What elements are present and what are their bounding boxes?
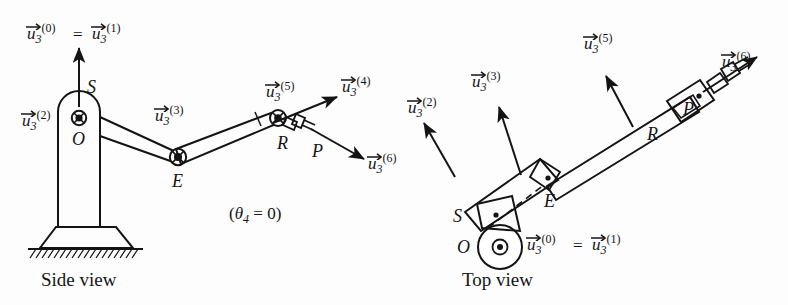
annotation-value: 0 xyxy=(267,204,276,223)
side-view-caption: Side view xyxy=(41,270,116,289)
point-label-O-side: O xyxy=(72,130,85,148)
shoulder-pivot-dot-top xyxy=(493,212,498,217)
arrow-u3-3-top xyxy=(499,107,521,175)
annotation-close-paren: ) xyxy=(276,204,282,223)
point-label-E-side: E xyxy=(172,172,183,190)
vector-label-u3-0-side: u3(0) xyxy=(27,22,56,45)
arrow-u3-2-top xyxy=(424,123,455,177)
vector-label-u3-1-top: u3(1) xyxy=(592,233,621,256)
vector-superscript: (0) xyxy=(542,232,556,246)
point-label-E-top: E xyxy=(544,192,555,210)
vector-label-u3-2-side: u3(2) xyxy=(22,109,51,132)
vector-label-u3-6-top: u3(6) xyxy=(722,50,751,73)
equals-sign-side: = xyxy=(73,26,83,43)
vector-arrow-glyph xyxy=(341,69,356,77)
vector-arrow-glyph xyxy=(21,103,36,111)
annotation-equals: = xyxy=(249,204,267,223)
vector-superscript: (3) xyxy=(487,69,501,83)
vector-arrow-glyph xyxy=(591,227,606,235)
vector-superscript: (6) xyxy=(383,151,397,165)
vector-label-u3-4-side: u3(4) xyxy=(342,75,371,98)
top-view-caption: Top view xyxy=(462,270,533,289)
annotation-theta-symbol: θ xyxy=(235,204,243,223)
vector-arrow-glyph xyxy=(91,16,106,24)
vector-arrow-glyph xyxy=(367,146,382,154)
vector-label-u3-3-top: u3(3) xyxy=(472,70,501,93)
pedestal-base xyxy=(40,227,133,248)
vector-label-u3-1-side: u3(1) xyxy=(92,22,121,45)
point-label-R-top: R xyxy=(647,125,658,143)
vector-superscript: (6) xyxy=(737,49,751,63)
ground-line xyxy=(28,249,143,258)
point-label-O-top: O xyxy=(457,238,470,256)
vector-superscript: (1) xyxy=(607,232,621,246)
elbow-pivot-dot-top xyxy=(545,175,550,180)
vector-superscript: (3) xyxy=(170,103,184,117)
equals-sign-top: = xyxy=(573,237,583,254)
vector-arrow-glyph xyxy=(26,16,41,24)
vector-label-u3-2-top: u3(2) xyxy=(408,96,437,119)
vector-label-u3-5-side: u3(5) xyxy=(266,80,295,103)
vector-superscript: (5) xyxy=(281,79,295,93)
vector-superscript: (0) xyxy=(42,21,56,35)
arrow-u3-5-top xyxy=(606,76,633,127)
vector-arrow-glyph xyxy=(721,44,736,52)
point-label-S-top: S xyxy=(453,207,462,225)
vector-label-u3-5-top: u3(5) xyxy=(584,32,613,55)
vector-superscript: (5) xyxy=(599,31,613,45)
vector-arrow-glyph xyxy=(526,227,541,235)
vector-superscript: (2) xyxy=(37,108,51,122)
theta4-annotation: (θ4 = 0) xyxy=(229,205,281,225)
vector-superscript: (2) xyxy=(423,95,437,109)
point-label-S-side: S xyxy=(87,78,96,96)
vector-arrow-glyph xyxy=(583,26,598,34)
vector-superscript: (4) xyxy=(357,74,371,88)
point-label-P-top: P xyxy=(683,100,694,118)
point-label-P-side: P xyxy=(312,142,323,160)
shoulder-joint-marker-side xyxy=(72,111,86,125)
vector-arrow-glyph xyxy=(265,74,280,82)
point-label-R-side: R xyxy=(277,134,288,152)
forearm-link-side xyxy=(176,113,276,164)
vector-arrow-glyph xyxy=(154,98,169,106)
vector-arrow-glyph xyxy=(471,64,486,72)
vector-label-u3-3-side: u3(3) xyxy=(155,104,184,127)
vector-label-u3-0-top: u3(0) xyxy=(527,233,556,256)
vector-superscript: (1) xyxy=(107,21,121,35)
vector-arrow-glyph xyxy=(407,90,422,98)
vector-label-u3-6-side: u3(6) xyxy=(368,152,397,175)
